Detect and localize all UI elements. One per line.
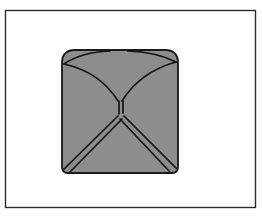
figure-canvas xyxy=(0,0,262,216)
figure-svg xyxy=(0,0,262,216)
